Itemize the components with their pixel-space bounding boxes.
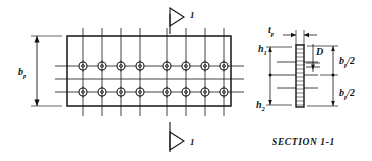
tp-label: tp [268,24,275,37]
h2-label: h2 [256,99,266,112]
section-arrowhead [170,132,184,150]
section-marks: 11 [170,8,195,152]
tp-dimension [283,30,317,46]
section-mark-bottom: 1 [170,122,195,152]
section-view: tp D h1 [256,24,355,147]
drawing-canvas: bp 11 [0,0,372,161]
plan-view: bp [18,28,244,116]
h2-dimension [266,75,292,105]
h1-label: h1 [258,43,267,56]
section-level-lines [270,62,318,88]
bp-dimension [31,36,62,106]
section-mark-label: 1 [190,10,195,20]
bp-half-lower-label: bp/2 [339,87,355,100]
bp-label: bp [18,66,27,79]
bp-half-upper-label: bp/2 [339,55,355,68]
d-label: D [315,46,323,57]
vertical-centerlines [83,28,224,116]
section-caption: SECTION 1-1 [272,137,335,147]
engineering-drawing: bp 11 [0,0,372,161]
section-arrowhead [170,8,184,26]
section-mark-label: 1 [190,137,195,147]
section-mark-top: 1 [170,8,195,34]
section-plate-outline [296,45,304,107]
